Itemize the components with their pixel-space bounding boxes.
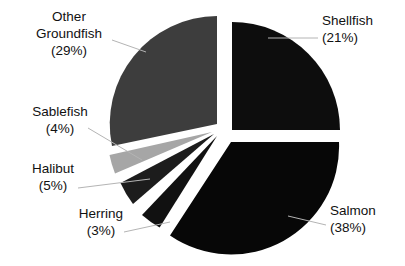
pie-chart-figure: Other Groundfish (29%) Shellfish (21%) S… (0, 0, 405, 266)
pie-label-other-groundfish: Other Groundfish (29%) (14, 8, 124, 59)
pie-label-salmon: Salmon (38%) (330, 202, 402, 236)
pie-label-salmon-value: (38%) (330, 219, 402, 236)
pie-label-other-groundfish-line2: Groundfish (14, 25, 124, 42)
pie-label-herring-value: (3%) (62, 222, 140, 239)
pie-label-other-groundfish-value: (29%) (14, 42, 124, 59)
pie-label-salmon-line1: Salmon (330, 202, 402, 219)
pie-label-shellfish-value: (21%) (322, 29, 402, 46)
pie-label-halibut: Halibut (5%) (14, 160, 92, 194)
pie-slice-other-groundfish[interactable] (110, 16, 217, 146)
pie-label-halibut-line1: Halibut (14, 160, 92, 177)
pie-label-other-groundfish-line1: Other (14, 8, 124, 25)
pie-label-herring: Herring (3%) (62, 205, 140, 239)
pie-label-shellfish-line1: Shellfish (322, 12, 402, 29)
pie-label-herring-line1: Herring (62, 205, 140, 222)
pie-label-sablefish-value: (4%) (14, 120, 106, 137)
pie-label-halibut-value: (5%) (14, 177, 92, 194)
pie-label-shellfish: Shellfish (21%) (322, 12, 402, 46)
pie-label-sablefish: Sablefish (4%) (14, 103, 106, 137)
pie-label-sablefish-line1: Sablefish (14, 103, 106, 120)
